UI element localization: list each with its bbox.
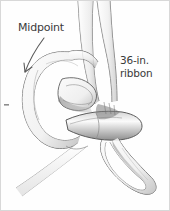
edge-tick-icon	[4, 104, 9, 106]
right-loop	[100, 138, 156, 194]
ribbon-label-line1: 36-in.	[120, 54, 149, 66]
lower-tail	[16, 143, 88, 196]
upper-right-strand	[97, 0, 117, 102]
ribbon-label-line2: ribbon	[120, 67, 152, 80]
midpoint-label: Midpoint	[18, 21, 64, 34]
ribbon-illustration-figure: Midpoint 36-in.ribbon	[0, 0, 170, 211]
ribbon-length-label: 36-in.ribbon	[120, 54, 152, 80]
